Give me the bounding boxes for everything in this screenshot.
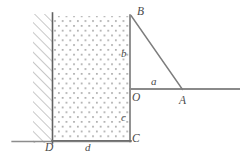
dimension-label-c: c (121, 112, 126, 123)
figure-canvas: B O A C D b a c d (0, 0, 246, 156)
dimension-label-b: b (121, 48, 127, 59)
hatched-wall-region (33, 14, 52, 143)
point-label-D: D (45, 142, 53, 154)
point-label-B: B (137, 6, 144, 18)
point-label-A: A (179, 95, 186, 107)
dimension-label-d: d (85, 142, 91, 153)
dimension-label-a: a (151, 76, 157, 87)
diagram-svg (0, 0, 246, 156)
point-label-O: O (132, 92, 140, 104)
stippled-block-region (53, 16, 130, 141)
point-label-C: C (132, 133, 140, 145)
